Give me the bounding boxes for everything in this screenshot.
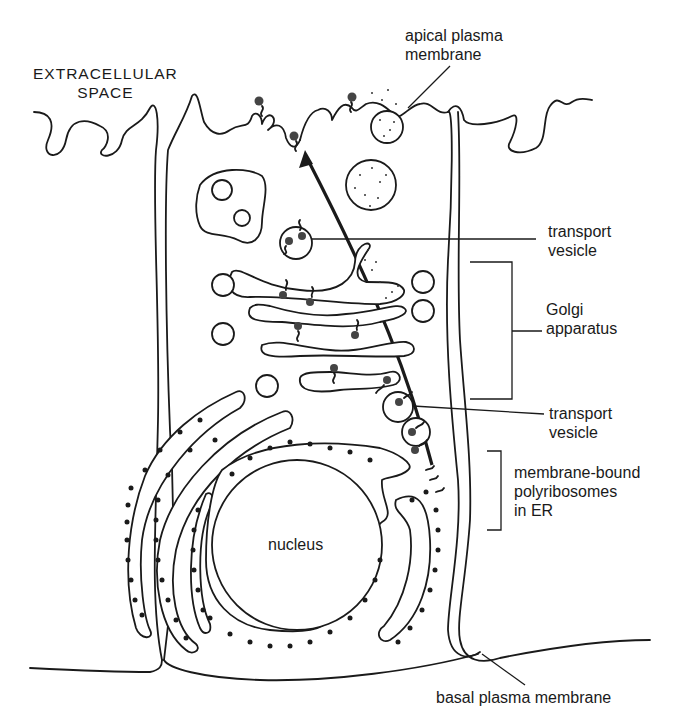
golgi-cisterna-2 bbox=[249, 305, 406, 327]
label-golgi-apparatus: Golgi apparatus bbox=[546, 300, 617, 338]
golgi-vesicle bbox=[412, 300, 434, 322]
endosome-vesicle bbox=[212, 180, 232, 200]
secretory-granule bbox=[346, 160, 396, 210]
label-polyribosomes: membrane-bound polyribosomes in ER bbox=[514, 463, 640, 520]
cell-diagram bbox=[0, 0, 680, 725]
apical-membrane-left bbox=[34, 105, 162, 660]
endosome-vesicle bbox=[234, 210, 250, 226]
label-extracellular-space: EXTRACELLULAR SPACE bbox=[33, 64, 178, 102]
apical-membrane-far-right bbox=[448, 99, 592, 153]
golgi-cisterna-1 bbox=[229, 244, 404, 305]
label-apical-membrane: apical plasma membrane bbox=[405, 26, 503, 64]
basal-membrane bbox=[30, 660, 162, 672]
transport-vesicle-bottom bbox=[383, 392, 413, 422]
golgi-vesicle bbox=[256, 375, 278, 397]
label-transport-vesicle-bottom: transport vesicle bbox=[549, 404, 612, 442]
basal-membrane-mid bbox=[164, 654, 478, 680]
golgi-vesicle bbox=[212, 323, 234, 345]
golgi-vesicle bbox=[212, 274, 234, 296]
label-nucleus: nucleus bbox=[268, 535, 323, 554]
endosome bbox=[196, 170, 265, 243]
label-transport-vesicle-top: transport vesicle bbox=[548, 222, 611, 260]
secretory-granule-fusing bbox=[371, 111, 403, 143]
golgi-vesicle bbox=[412, 271, 434, 293]
cell-boundary-right bbox=[458, 112, 650, 661]
golgi-cisterna-3 bbox=[261, 342, 414, 357]
label-basal-membrane: basal plasma membrane bbox=[436, 688, 611, 707]
